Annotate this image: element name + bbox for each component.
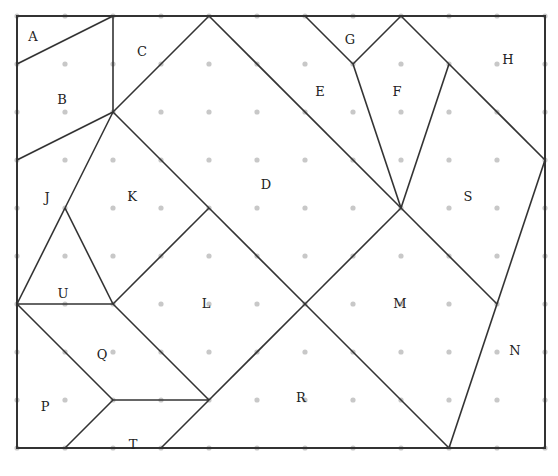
grid-dot	[62, 61, 67, 66]
grid-dot	[254, 301, 259, 306]
grid-dot	[350, 109, 355, 114]
boundary-line	[449, 64, 545, 160]
boundary-line	[17, 112, 113, 160]
grid-dot	[398, 109, 403, 114]
boundary-line	[449, 304, 497, 448]
grid-dot	[446, 157, 451, 162]
grid-dots	[14, 13, 547, 450]
grid-dot	[494, 205, 499, 210]
boundary-line	[353, 16, 401, 64]
region-label-m: M	[393, 296, 406, 311]
tangram-grid-diagram: ABCDEFGHJKLMNPQRSTU	[0, 0, 558, 476]
region-label-f: F	[392, 84, 401, 99]
boundary-line	[305, 208, 401, 304]
boundary-line	[113, 16, 209, 112]
grid-dot	[206, 253, 211, 258]
grid-dot	[254, 109, 259, 114]
grid-dot	[350, 205, 355, 210]
grid-dot	[494, 157, 499, 162]
grid-dot	[206, 157, 211, 162]
grid-dot	[110, 157, 115, 162]
grid-dot	[254, 205, 259, 210]
region-label-r: R	[296, 390, 307, 405]
boundary-line	[65, 208, 113, 304]
grid-dot	[398, 61, 403, 66]
region-label-d: D	[261, 177, 271, 192]
region-label-h: H	[502, 52, 513, 67]
boundary-line	[401, 208, 497, 304]
grid-dot	[254, 157, 259, 162]
boundary-line	[209, 304, 305, 400]
grid-dot	[110, 349, 115, 354]
boundary-line	[161, 400, 209, 448]
region-label-a: A	[27, 29, 38, 44]
grid-dot	[158, 205, 163, 210]
boundary-line	[401, 64, 449, 208]
grid-dot	[350, 397, 355, 402]
grid-dot	[110, 253, 115, 258]
region-label-l: L	[202, 296, 211, 311]
boundary-line	[113, 304, 209, 400]
grid-dot	[302, 205, 307, 210]
region-label-b: B	[57, 92, 67, 107]
region-label-s: S	[464, 189, 473, 204]
region-label-g: G	[345, 32, 355, 47]
grid-dot	[398, 157, 403, 162]
grid-dot	[254, 397, 259, 402]
grid-dot	[494, 61, 499, 66]
grid-dot	[302, 253, 307, 258]
grid-dot	[398, 253, 403, 258]
region-label-c: C	[137, 44, 147, 59]
grid-dot	[494, 349, 499, 354]
region-label-k: K	[127, 189, 137, 204]
region-label-n: N	[509, 343, 520, 358]
grid-dot	[110, 205, 115, 210]
region-label-p: P	[41, 399, 50, 414]
grid-dot	[446, 301, 451, 306]
grid-dot	[350, 301, 355, 306]
grid-dot	[494, 253, 499, 258]
boundary-line	[209, 208, 305, 304]
grid-dot	[446, 109, 451, 114]
region-boundaries	[17, 16, 545, 448]
boundary-line	[65, 112, 113, 208]
boundary-line	[401, 16, 449, 64]
boundary-line	[497, 160, 545, 304]
grid-dot	[206, 109, 211, 114]
grid-dot	[302, 349, 307, 354]
region-label-q: Q	[97, 347, 108, 362]
region-label-j: J	[42, 190, 49, 205]
grid-dot	[206, 349, 211, 354]
region-label-t: T	[129, 437, 138, 452]
boundary-line	[305, 304, 449, 448]
boundary-line	[65, 400, 113, 448]
grid-dot	[398, 349, 403, 354]
region-label-e: E	[315, 84, 325, 99]
boundary-line	[113, 208, 209, 304]
grid-dot	[62, 397, 67, 402]
grid-dot	[302, 61, 307, 66]
grid-dot	[158, 301, 163, 306]
grid-dot	[446, 397, 451, 402]
grid-dot	[302, 157, 307, 162]
grid-dot	[158, 109, 163, 114]
grid-dot	[62, 253, 67, 258]
grid-dot	[446, 205, 451, 210]
grid-dot	[62, 157, 67, 162]
grid-dot	[206, 61, 211, 66]
grid-dot	[446, 349, 451, 354]
region-label-u: U	[58, 286, 69, 301]
grid-dot	[494, 397, 499, 402]
grid-dot	[62, 109, 67, 114]
